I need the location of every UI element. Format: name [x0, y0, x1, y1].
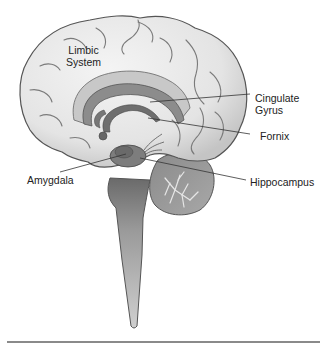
brainstem — [108, 178, 150, 328]
cingulate-label-line1: Cingulate — [255, 92, 299, 104]
limbic-label-line1: Limbic — [66, 44, 101, 56]
nucleus-dot — [99, 132, 107, 140]
fornix-label-text: Fornix — [260, 130, 289, 142]
cingulate-gyrus-label: Cingulate Gyrus — [255, 92, 299, 116]
hippocampus-label-text: Hippocampus — [250, 176, 314, 188]
hippocampus-label: Hippocampus — [250, 176, 314, 188]
bottom-divider — [7, 341, 320, 343]
limbic-system-diagram — [0, 0, 325, 345]
amygdala-label: Amygdala — [27, 174, 74, 186]
cingulate-label-line2: Gyrus — [255, 104, 299, 116]
fornix-label: Fornix — [260, 130, 289, 142]
amygdala-label-text: Amygdala — [27, 174, 74, 186]
limbic-label-line2: System — [66, 56, 101, 68]
limbic-system-label: Limbic System — [66, 44, 101, 68]
